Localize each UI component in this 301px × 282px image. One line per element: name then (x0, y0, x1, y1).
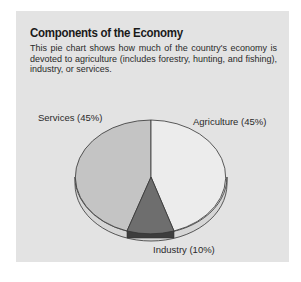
label-industry: Industry (10%) (153, 244, 215, 255)
label-services: Services (45%) (38, 112, 102, 123)
label-agriculture: Agriculture (45%) (193, 116, 266, 127)
pie-chart (0, 0, 301, 282)
